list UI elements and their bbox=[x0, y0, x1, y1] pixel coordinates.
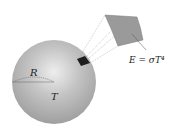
stefan-boltzmann-diagram: R T E = σT⁴ bbox=[0, 0, 173, 132]
diagram-graphic bbox=[0, 0, 173, 132]
temperature-label: T bbox=[51, 92, 58, 102]
radius-label: R bbox=[30, 68, 38, 78]
emission-patch bbox=[105, 15, 143, 46]
equation-label: E = σT⁴ bbox=[129, 56, 165, 65]
